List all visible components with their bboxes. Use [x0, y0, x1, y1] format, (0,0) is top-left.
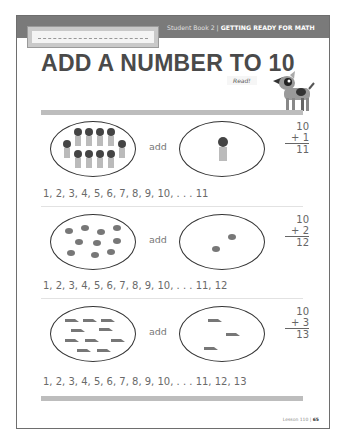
counting-sequence-2: 1, 2, 3, 4, 5, 6, 7, 8, 9, 10, . . . 11,… [43, 280, 227, 291]
read-badge: Read! [227, 76, 257, 85]
snail-icon [51, 215, 137, 271]
person-icon [51, 122, 137, 178]
book-label: Student Book 2 | [167, 24, 219, 31]
addend-top: 10 [279, 121, 309, 132]
left-group-oval [50, 121, 136, 177]
lesson-label: Lesson 110 | [283, 417, 311, 422]
header-text: Student Book 2 | GETTING READY FOR MATH [167, 24, 315, 31]
problem-row-2: add 10 + 2 12 [17, 214, 329, 286]
sum-value: 13 [279, 329, 309, 340]
addend-top: 10 [279, 214, 309, 225]
name-field[interactable] [27, 26, 159, 48]
sum-equation: 10 + 3 13 [279, 306, 309, 340]
name-line [38, 38, 148, 39]
row-divider [41, 206, 303, 207]
snail-icon [180, 215, 266, 271]
sum-value: 11 [279, 144, 309, 155]
worksheet-page: Student Book 2 | GETTING READY FOR MATH … [16, 15, 330, 429]
counting-sequence-1: 1, 2, 3, 4, 5, 6, 7, 8, 9, 10, . . . 11 [43, 188, 208, 199]
right-group-oval [179, 306, 265, 362]
left-group-oval [50, 306, 136, 362]
row-divider [41, 298, 303, 299]
page-footer: Lesson 110 | 65 [283, 417, 319, 422]
bottom-divider [41, 396, 303, 401]
counting-sequence-3: 1, 2, 3, 4, 5, 6, 7, 8, 9, 10, . . . 11,… [43, 376, 247, 387]
left-group-oval [50, 214, 136, 270]
top-divider [41, 110, 303, 115]
addend-top: 10 [279, 306, 309, 317]
sum-equation: 10 + 1 11 [279, 121, 309, 155]
problem-row-1: add 10 + 1 11 [17, 121, 329, 193]
shoe-icon [180, 307, 266, 363]
problem-row-3: add 10 + 3 13 [17, 306, 329, 378]
page-number: 65 [313, 417, 319, 422]
add-label: add [149, 141, 167, 152]
sum-value: 12 [279, 237, 309, 248]
right-group-oval [179, 121, 265, 177]
page-title: ADD A NUMBER TO 10 [41, 50, 295, 77]
sum-equation: 10 + 2 12 [279, 214, 309, 248]
addend-bottom: + 1 [279, 132, 309, 143]
addend-bottom: + 3 [279, 317, 309, 328]
section-title: GETTING READY FOR MATH [221, 24, 315, 31]
add-label: add [149, 234, 167, 245]
person-icon [180, 122, 266, 178]
add-label: add [149, 326, 167, 337]
shoe-icon [51, 307, 137, 363]
right-group-oval [179, 214, 265, 270]
dog-icon [267, 71, 315, 113]
addend-bottom: + 2 [279, 225, 309, 236]
